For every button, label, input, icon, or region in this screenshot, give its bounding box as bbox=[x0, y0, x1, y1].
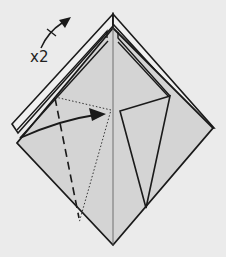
repeat-arrow bbox=[41, 23, 62, 48]
repeat-label: x2 bbox=[30, 48, 48, 66]
origami-diagram: x2 bbox=[0, 0, 226, 257]
repeat-arrow-head bbox=[59, 17, 71, 28]
diagram-canvas bbox=[0, 0, 226, 257]
